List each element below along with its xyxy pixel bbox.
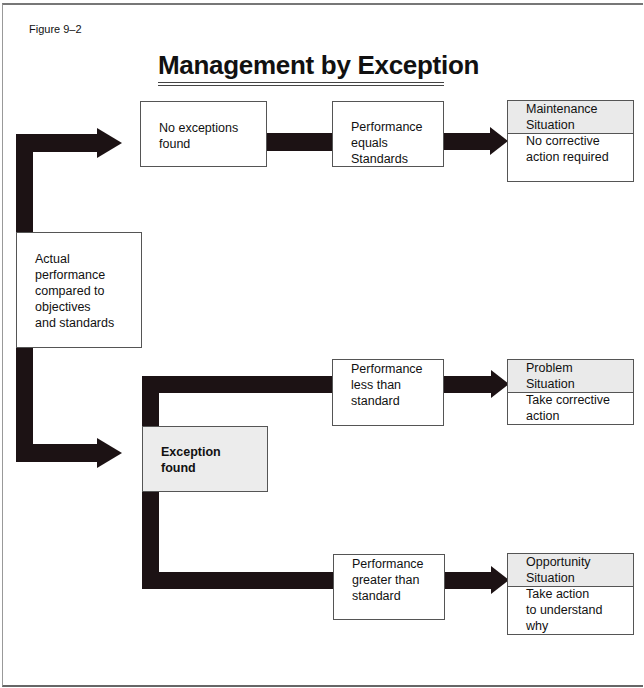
problem-body-label: Take corrective action <box>526 392 610 424</box>
less-than-node: Performance less than standard <box>332 359 444 426</box>
arrow-to-no-exceptions-shaft <box>16 134 98 152</box>
equals-label: Performance equals Standards <box>351 119 423 167</box>
opportunity-header-label: Opportunity Situation <box>526 554 591 586</box>
opportunity-situation: Opportunity Situation Take action to und… <box>507 553 634 635</box>
start-node-label: Actual performance compared to objective… <box>35 251 114 331</box>
arrow-right-icon <box>97 438 122 468</box>
exception-found-label: Exception found <box>161 444 221 476</box>
start-node: Actual performance compared to objective… <box>16 232 142 348</box>
maintenance-header-label: Maintenance Situation <box>526 101 598 133</box>
maintenance-body: No corrective action required <box>508 133 633 181</box>
maintenance-situation: Maintenance Situation No corrective acti… <box>507 100 634 182</box>
opportunity-header: Opportunity Situation <box>508 554 633 587</box>
equals-node: Performance equals Standards <box>332 101 444 167</box>
no-exceptions-node: No exceptions found <box>140 101 267 167</box>
diagram-title: Management by Exception <box>158 50 479 81</box>
connector-no-exceptions-to-equals <box>266 133 336 151</box>
title-underline <box>158 82 444 83</box>
no-exceptions-label: No exceptions found <box>159 120 238 152</box>
figure-label: Figure 9–2 <box>29 23 82 35</box>
maintenance-header: Maintenance Situation <box>508 101 633 134</box>
arrow-right-icon <box>490 127 508 155</box>
arrow-right-icon <box>97 128 122 158</box>
connector-to-greater-than <box>142 572 334 589</box>
arrow-to-maintenance-shaft <box>443 133 493 150</box>
connector-to-less-than <box>142 376 334 393</box>
problem-body: Take corrective action <box>508 392 633 424</box>
exception-found-node: Exception found <box>142 426 268 492</box>
opportunity-body-label: Take action to understand why <box>526 586 602 634</box>
opportunity-body: Take action to understand why <box>508 586 633 634</box>
arrow-to-problem-shaft <box>444 376 494 393</box>
less-than-label: Performance less than standard <box>351 361 423 409</box>
greater-than-label: Performance greater than standard <box>352 556 424 604</box>
problem-situation: Problem Situation Take corrective action <box>507 359 634 425</box>
maintenance-body-label: No corrective action required <box>526 133 609 165</box>
problem-header-label: Problem Situation <box>526 360 575 392</box>
problem-header: Problem Situation <box>508 360 633 393</box>
title-underline-2 <box>158 85 444 86</box>
greater-than-node: Performance greater than standard <box>333 554 445 620</box>
arrow-to-opportunity-shaft <box>444 572 494 589</box>
arrow-to-exception-shaft <box>16 444 98 462</box>
